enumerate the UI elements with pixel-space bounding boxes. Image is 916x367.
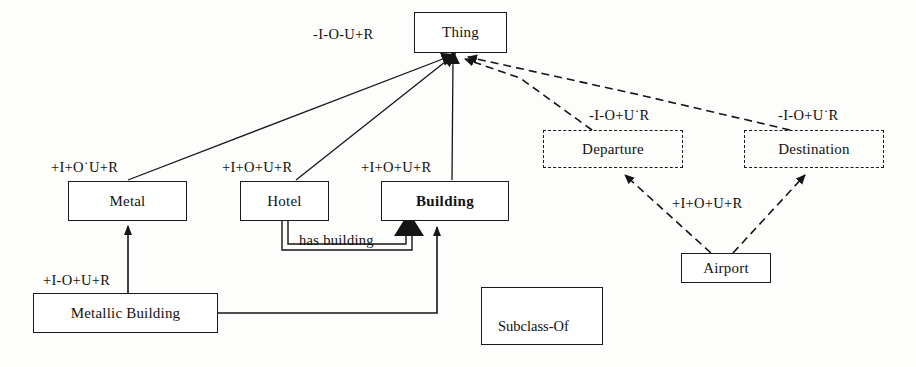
node-building[interactable]: Building (381, 181, 509, 221)
node-thing[interactable]: Thing (414, 12, 507, 53)
node-departure[interactable]: Departure (543, 130, 683, 168)
node-building-label: Building (416, 193, 474, 210)
edge-airport-to-departure (625, 175, 711, 253)
edge-label-airport: +I+O+U+R (672, 195, 743, 212)
edge-label-departure: -I-O+U˙R (589, 107, 650, 124)
edge-label-building: +I+O+U+R (361, 159, 432, 176)
node-thing-label: Thing (442, 24, 479, 41)
diagram-canvas: Thing Metal Hotel Building Metallic Buil… (0, 0, 916, 367)
edge-airport-to-destination (733, 175, 805, 253)
node-metallic-building-label: Metallic Building (71, 305, 181, 322)
node-departure-label: Departure (582, 141, 644, 158)
node-destination-label: Destination (778, 141, 849, 158)
edge-label-metallic-building: +I-O+U+R (43, 272, 110, 289)
node-metal[interactable]: Metal (68, 181, 187, 221)
node-metal-label: Metal (110, 193, 146, 210)
legend-caption: Subclass-Of (498, 318, 569, 335)
node-airport-label: Airport (703, 260, 749, 277)
edge-departure-to-thing (465, 59, 592, 130)
edge-label-thing: -I-O-U+R (313, 26, 374, 43)
node-metallic-building[interactable]: Metallic Building (33, 293, 218, 333)
edge-label-has-building: has building (299, 232, 374, 249)
node-destination[interactable]: Destination (744, 130, 884, 168)
edge-label-hotel: +I+O+U+R (222, 159, 293, 176)
edge-label-metal: +I+O˙U+R (51, 159, 118, 176)
node-hotel[interactable]: Hotel (240, 181, 329, 221)
node-hotel-label: Hotel (267, 193, 301, 210)
node-airport[interactable]: Airport (681, 253, 771, 283)
edge-label-destination: -I-O+U˙R (778, 107, 839, 124)
edge-building-to-thing (452, 58, 453, 180)
legend-box (481, 287, 603, 345)
